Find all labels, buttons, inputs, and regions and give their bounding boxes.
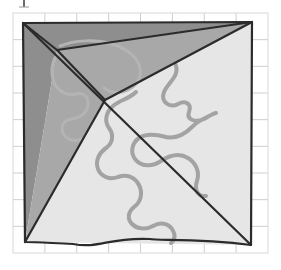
quadrilateral-diagram <box>0 0 281 270</box>
figure-container <box>0 0 281 270</box>
